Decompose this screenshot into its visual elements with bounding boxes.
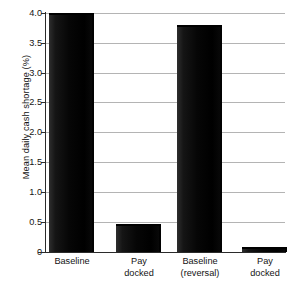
x-tick-label-line: Pay — [235, 256, 290, 268]
y-tick-label: 2.5 — [16, 98, 42, 107]
x-tick-label-line: Baseline — [170, 256, 230, 268]
bar-baseline — [49, 13, 94, 252]
bar-top-edge — [177, 25, 222, 27]
bar-chart-figure: Mean daily cash shortage (%) 4.0 3.5 3.0… — [0, 0, 290, 292]
x-tick-label-line: docked — [109, 268, 169, 280]
bar-pay-docked-reversal — [242, 247, 287, 252]
bar-top-edge — [242, 247, 287, 249]
x-axis-tick-labels: Baseline Pay docked Baseline (reversal) … — [46, 256, 285, 292]
y-tick-label: 1.5 — [16, 158, 42, 167]
y-tick-label: 3.0 — [16, 69, 42, 78]
x-tick-label-baseline-reversal: Baseline (reversal) — [170, 256, 230, 279]
y-tick-label: 2.0 — [16, 128, 42, 137]
x-tick-label-line: Pay — [109, 256, 169, 268]
plot-area — [46, 13, 285, 252]
bar-pay-docked — [116, 224, 161, 252]
x-axis-line — [38, 252, 286, 253]
y-tick-label: 1.0 — [16, 188, 42, 197]
bar-top-edge — [49, 13, 94, 15]
x-tick-label-baseline: Baseline — [42, 256, 102, 268]
y-tick-label: 3.5 — [16, 39, 42, 48]
x-tick-label-line: (reversal) — [170, 268, 230, 280]
x-tick-label-line: docked — [235, 268, 290, 280]
y-axis-tick-labels: 4.0 3.5 3.0 2.5 2.0 1.5 1.0 0.5 0 — [16, 0, 42, 292]
x-tick-label-line: Baseline — [42, 256, 102, 268]
bar-baseline-reversal — [177, 25, 222, 252]
bar-top-edge — [116, 224, 161, 226]
x-tick-label-pay-docked-reversal: Pay docked — [235, 256, 290, 279]
y-tick-label: 0.5 — [16, 218, 42, 227]
x-tick-label-pay-docked: Pay docked — [109, 256, 169, 279]
y-tick-label: 4.0 — [16, 9, 42, 18]
